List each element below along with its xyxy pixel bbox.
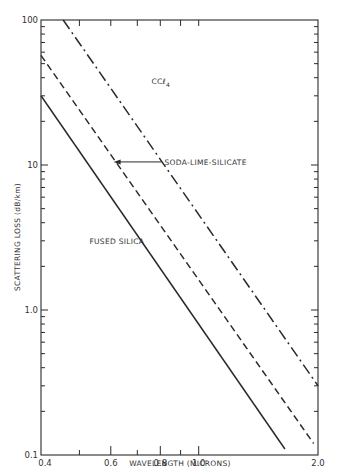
- label-ccl4: CCℓ4: [151, 77, 170, 88]
- y-tick-label: 100: [22, 15, 38, 25]
- axis-ticks: 0.40.60.81.02.00.11.010100: [22, 15, 325, 468]
- label-fused-silica: FUSED SILICA: [89, 237, 144, 246]
- y-tick-label: 10: [27, 160, 38, 170]
- y-tick-label: 0.1: [24, 450, 38, 460]
- x-tick-label: 0.6: [104, 458, 118, 468]
- annotations: CCℓ4SODA-LIME-SILICATEFUSED SILICA: [89, 77, 246, 245]
- y-axis-title: SCATTERING LOSS (dB/km): [13, 183, 22, 291]
- scattering-loss-chart: 0.40.60.81.02.00.11.010100 CCℓ4SODA-LIME…: [0, 0, 338, 471]
- y-tick-label: 1.0: [24, 305, 38, 315]
- series-ccl4: [63, 20, 318, 386]
- x-axis-title: WAVELENGTH (MICRONS): [129, 459, 230, 468]
- x-tick-label: 2.0: [311, 458, 325, 468]
- x-tick-label: 0.4: [38, 458, 52, 468]
- series-soda-lime-silicate: [41, 55, 314, 443]
- label-soda-lime-silicate: SODA-LIME-SILICATE: [165, 158, 247, 167]
- data-series: [41, 20, 318, 449]
- series-fused-silica: [41, 96, 285, 449]
